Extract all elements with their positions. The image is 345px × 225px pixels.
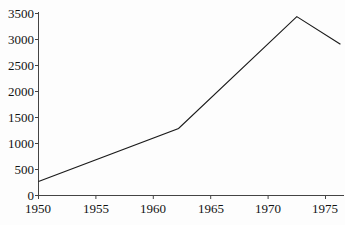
plot-area (0, 0, 345, 225)
x-tick-label: 1975 (312, 202, 338, 215)
x-tick-label: 1965 (198, 202, 224, 215)
x-tick-label: 1950 (25, 202, 51, 215)
x-tick-label: 1955 (83, 202, 109, 215)
x-axis-tick-labels: 1950 1955 1960 1965 1970 1975 (0, 202, 345, 222)
x-tick-label: 1970 (255, 202, 281, 215)
x-tick-marks (39, 196, 326, 199)
chart-figure: 3500 3000 2500 2000 1500 1000 500 0 (0, 0, 345, 225)
x-tick-label: 1960 (140, 202, 166, 215)
data-line-series-1 (39, 17, 341, 182)
y-tick-marks (35, 14, 38, 196)
